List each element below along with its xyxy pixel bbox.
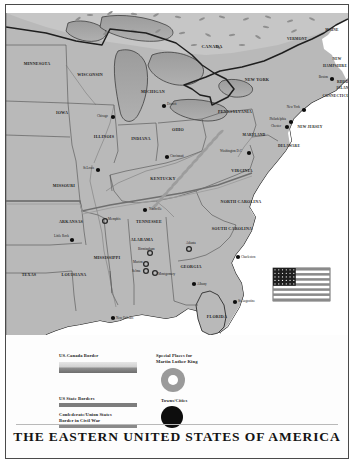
- map-label-indiana: INDIANA: [131, 136, 150, 141]
- flag-star: [286, 273, 287, 274]
- map-label-delaware: DELAWARE: [278, 144, 300, 148]
- map-label-canada: CANADA: [201, 44, 223, 49]
- flag-star: [274, 276, 275, 277]
- flag-star: [293, 273, 294, 274]
- flag-star: [293, 283, 294, 284]
- flag-stripe: [273, 288, 330, 291]
- map-label-mississippi: MISSISSIPPI: [94, 255, 121, 260]
- city-marker-st-augustine[interactable]: [233, 300, 237, 304]
- map-label-iowa: IOWA: [56, 110, 68, 115]
- flag-stripe: [273, 298, 330, 301]
- map-label-missouri: MISSOURI: [53, 183, 76, 188]
- city-marker-cincinnati[interactable]: [165, 155, 169, 159]
- flag-star: [274, 280, 275, 281]
- flag-star: [278, 280, 279, 281]
- map-label-ohio: OHIO: [172, 127, 184, 132]
- legend-label-us-state-borders: US State Borders: [59, 396, 95, 402]
- map-label-texas: TEXAS: [22, 272, 37, 277]
- flag-star: [293, 280, 294, 281]
- city-marker-detroit[interactable]: [162, 104, 166, 108]
- flag-star: [289, 283, 290, 284]
- map-label-pennsylvania: PENNSYLVANIA: [218, 109, 252, 114]
- flag-star: [286, 269, 287, 270]
- eastern-us-map[interactable]: CANADAMINNESOTAWISCONSINIOWAMICHIGANILLI…: [6, 5, 348, 335]
- flag-stripe: [273, 293, 330, 296]
- page-title: THE EASTERN UNITED STATES OF AMERICA: [6, 429, 348, 445]
- map-label-alabama: ALABAMA: [131, 237, 154, 242]
- flag-star: [278, 276, 279, 277]
- map-label-north-carolina: NORTH CAROLINA: [221, 199, 262, 204]
- map-label-new-jersey: NEW JERSEY: [297, 125, 322, 129]
- map-label-vermont: VERMONT: [287, 37, 308, 41]
- city-marker-philadelphia[interactable]: [289, 120, 293, 124]
- map-label-minnesota: MINNESOTA: [24, 61, 51, 66]
- legend-swatch-mlk-ring-icon: [161, 368, 185, 392]
- flag-star: [282, 283, 283, 284]
- city-label-selma: Selma: [132, 269, 141, 273]
- flag-star: [278, 273, 279, 274]
- city-label-cincinnati: Cincinnati: [170, 154, 184, 158]
- city-label-marion: Marion: [133, 260, 143, 264]
- city-label-st-louis: St.Louis: [83, 166, 95, 170]
- city-label-chicago: Chicago: [97, 114, 108, 118]
- flag-star: [286, 283, 287, 284]
- city-marker-washington-d-c[interactable]: [247, 151, 251, 155]
- map-label-maine: MAINE: [325, 28, 339, 32]
- legend-swatch-us-state-borders: [59, 403, 137, 407]
- flag-star: [289, 273, 290, 274]
- map-label-south-carolina: SOUTH CAROLINA: [212, 226, 252, 231]
- city-label-little-rock: Little Rock: [54, 234, 69, 238]
- city-label-washington-d-c: Washington D.C: [220, 149, 243, 153]
- map-label-new: NEW: [332, 57, 341, 61]
- map-label-maryland: MARYLAND: [243, 133, 266, 137]
- city-label-chester: Chester: [271, 124, 282, 128]
- flag-star: [286, 280, 287, 281]
- map-label-louisiana: LOUISIANA: [61, 272, 86, 277]
- map-label-georgia: GEORGIA: [180, 264, 201, 269]
- flag-star: [293, 276, 294, 277]
- city-label-philadelphia: Philadelphia: [270, 117, 287, 121]
- flag-star: [289, 276, 290, 277]
- city-label-new-orleans: New Orleans: [116, 316, 134, 320]
- city-label-birmingham: Birmingham: [138, 247, 155, 251]
- map-label-rhode: RHODE: [337, 80, 348, 84]
- city-label-st-augustine: St Augustine: [238, 299, 255, 303]
- city-marker-new-orleans[interactable]: [111, 316, 115, 320]
- ring-hole: [168, 375, 178, 385]
- city-marker-charleston[interactable]: [236, 255, 240, 259]
- map-label-michigan: MICHIGAN: [141, 89, 165, 94]
- city-marker-st-louis[interactable]: [96, 168, 100, 172]
- flag-star: [278, 283, 279, 284]
- city-label-memphis: Memphis: [108, 217, 121, 221]
- city-marker-chester[interactable]: [285, 125, 289, 129]
- city-marker-boston[interactable]: [330, 77, 334, 81]
- map-label-island: ISLAND: [337, 86, 348, 90]
- flag-star: [278, 269, 279, 270]
- map-label-illinois: ILLINOIS: [94, 134, 115, 139]
- city-marker-chicago[interactable]: [111, 115, 115, 119]
- city-marker-new-york[interactable]: [302, 108, 306, 112]
- flag-star: [274, 273, 275, 274]
- map-label-new-york: NEW YORK: [245, 77, 270, 82]
- legend-swatch-us-canada-border: [59, 362, 137, 373]
- city-marker-albany[interactable]: [192, 282, 196, 286]
- flag-star: [289, 269, 290, 270]
- map-label-tennessee: TENNESSEE: [136, 219, 162, 224]
- city-label-detroit: Detroit: [167, 102, 176, 106]
- city-label-albany: Albany: [197, 282, 207, 286]
- flag-star: [274, 283, 275, 284]
- map-label-kentucky: KENTUCKY: [150, 176, 175, 181]
- legend-swatch-confederate-union-border-upper: [59, 425, 137, 428]
- city-label-charleston: Charleston: [241, 255, 256, 259]
- legend-label-mlk-places-line2: Martin Luther King: [156, 359, 198, 365]
- city-marker-nashville[interactable]: [143, 208, 147, 212]
- map-label-florida: FLORIDA: [207, 314, 227, 319]
- us-flag: [273, 268, 330, 301]
- map-label-connecticut: CONNECTICUT: [322, 94, 348, 98]
- map-page: CANADAMINNESOTAWISCONSINIOWAMICHIGANILLI…: [0, 0, 354, 463]
- flag-star: [282, 269, 283, 270]
- flag-star: [286, 276, 287, 277]
- city-marker-little-rock[interactable]: [70, 238, 74, 242]
- map-label-hampshire: HAMPSHIRE: [323, 64, 347, 68]
- flag-star: [282, 276, 283, 277]
